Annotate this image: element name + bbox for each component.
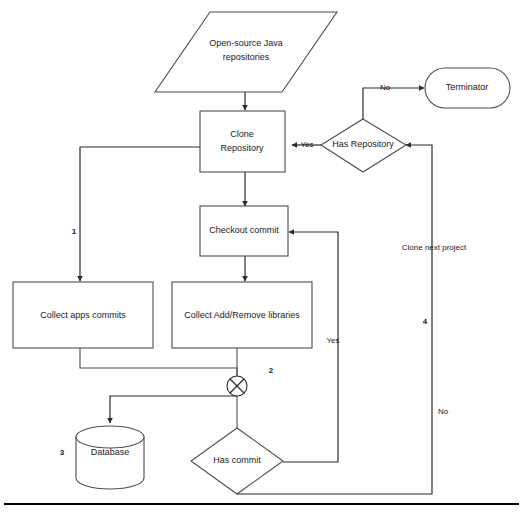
edge-label-yes-has-repository: Yes [300,140,313,149]
node-has-repository-decision[interactable]: Has Repository [321,119,406,172]
edge-label-clone-next-project: Clone next project [402,243,467,252]
node-input-label-line1: Open-source Java [209,38,283,48]
node-has-commit-label: Has commit [213,455,261,465]
edge-label-yes-has-commit: Yes [326,336,339,345]
step-number-4: 4 [423,317,428,326]
node-input-label-line2: repositories [223,52,270,62]
edge-label-no-has-repository: No [380,83,391,92]
flowchart-canvas: Open-source Java repositories Clone Repo… [0,0,523,514]
node-database[interactable]: Database [76,426,144,489]
node-has-commit-decision[interactable]: Has commit [191,428,283,494]
node-terminator[interactable]: Terminator [425,68,510,108]
step-number-2: 2 [269,366,274,375]
node-terminator-label: Terminator [446,82,489,92]
node-apps-label: Collect apps commits [40,310,126,320]
edge-label-no-has-commit: No [438,407,449,416]
node-checkout-label: Checkout commit [209,225,279,235]
node-libs-label: Collect Add/Remove libraries [184,310,300,320]
edge-hasrepo-no-to-terminator [363,88,424,120]
node-clone-label-line1: Clone [230,129,254,139]
step-number-3: 3 [60,448,65,457]
node-clone-repository[interactable]: Clone Repository [200,111,285,172]
node-clone-label-line2: Repository [220,143,264,153]
step-number-1: 1 [72,227,77,236]
edge-clone-to-apps [80,147,200,281]
edge-junction-to-database [110,396,237,423]
node-input-repositories[interactable]: Open-source Java repositories [155,12,337,92]
node-has-repository-label: Has Repository [332,139,394,149]
node-collect-add-remove-libraries[interactable]: Collect Add/Remove libraries [172,282,312,348]
node-database-label: Database [91,447,130,457]
node-checkout-commit[interactable]: Checkout commit [200,206,288,256]
node-collect-apps-commits[interactable]: Collect apps commits [13,282,153,348]
node-merge-junction[interactable] [227,376,247,396]
edge-apps-to-junction [80,348,237,376]
